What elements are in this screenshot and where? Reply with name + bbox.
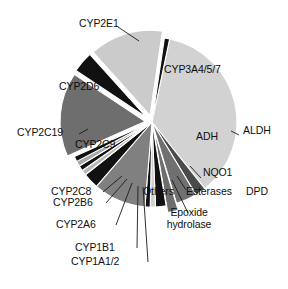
slice-label-dpd: DPD — [246, 186, 268, 198]
slice-label-cyp2c19: CYP2C19 — [17, 127, 63, 139]
slice-label-others: Others — [143, 186, 174, 198]
slice-label-epoxide-hydrolase: Epoxide hydrolase — [158, 207, 220, 230]
slice-label-cyp2b6: CYP2B6 — [53, 197, 93, 209]
slice-label-cyp1a12: CYP1A1/2 — [71, 256, 119, 268]
slice-label-cyp2c9: CYP2C9 — [75, 139, 115, 151]
slice-label-nqo1: NQO1 — [203, 167, 232, 179]
slice-label-esterases: Esterases — [186, 186, 232, 198]
slice-label-cyp1b1: CYP1B1 — [75, 242, 115, 254]
pie-chart-canvas — [0, 0, 288, 289]
slice-label-cyp2e1: CYP2E1 — [79, 18, 119, 30]
slice-label-cyp2d6: CYP2D6 — [59, 81, 99, 93]
slice-label-cyp2a6: CYP2A6 — [56, 219, 96, 231]
slice-label-cyp3a4: CYP3A4/5/7 — [164, 64, 221, 76]
slice-label-aldh: ALDH — [243, 125, 271, 137]
pie-chart-figure: CYP3A4/5/7 CYP2D6 CYP2C9 CYP2E1 CYP2C19 … — [0, 0, 288, 289]
slice-label-adh: ADH — [196, 131, 218, 143]
